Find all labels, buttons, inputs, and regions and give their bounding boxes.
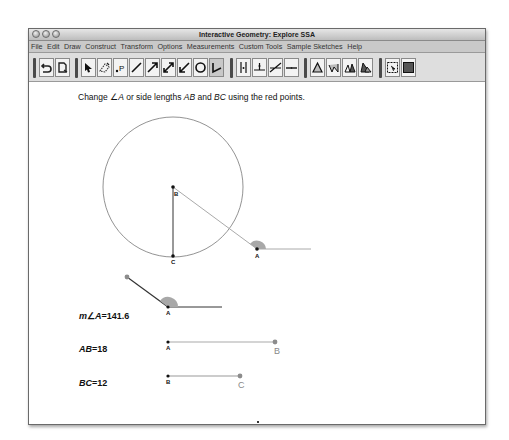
- title-bar[interactable]: Interactive Geometry: Explore SSA: [29, 29, 485, 41]
- meas-angle-value: 141.6: [107, 311, 130, 321]
- segment-ab: [173, 187, 257, 249]
- resize-indicator: [257, 421, 259, 423]
- point-a[interactable]: [255, 247, 259, 251]
- erase-tool-button[interactable]: [97, 58, 112, 77]
- toolbar-grip[interactable]: [75, 58, 78, 78]
- menu-edit[interactable]: Edit: [47, 42, 59, 51]
- point-c[interactable]: [171, 254, 175, 258]
- menu-bar: File Edit Draw Construct Transform Optio…: [29, 41, 485, 53]
- toolbar: P: [29, 53, 485, 82]
- label-angle-vertex: A: [166, 310, 171, 316]
- label-ab-start: A: [166, 345, 171, 351]
- vector-tool-button[interactable]: [177, 58, 192, 77]
- app-window: Interactive Geometry: Explore SSA File E…: [28, 28, 486, 425]
- meas-ab-name: AB: [79, 344, 92, 354]
- angle-control-arm: [127, 277, 168, 307]
- label-bc-end: C: [238, 380, 245, 390]
- toolbar-grip[interactable]: [304, 58, 307, 78]
- intersect-tool-button[interactable]: [268, 58, 283, 77]
- fill-button[interactable]: [401, 58, 416, 77]
- perpendicular-icon: [253, 61, 266, 74]
- reflect-tool-button[interactable]: [326, 58, 341, 77]
- ray-tool-button[interactable]: [145, 58, 160, 77]
- point-tool-button[interactable]: P: [113, 58, 128, 77]
- point-tool-icon: P: [114, 61, 127, 74]
- menu-help[interactable]: Help: [347, 42, 362, 51]
- segment-icon: [130, 61, 143, 74]
- meas-bc-value: 12: [97, 378, 107, 388]
- dilate-icon: [359, 61, 372, 74]
- bc-control-point[interactable]: [238, 374, 243, 379]
- bc-start-point: [166, 374, 169, 377]
- toolbar-grip[interactable]: [379, 58, 382, 78]
- triangle-tool-button[interactable]: [310, 58, 325, 77]
- new-sketch-icon: [56, 61, 69, 74]
- toolbar-grip[interactable]: [230, 58, 233, 78]
- midline-icon: [285, 61, 298, 74]
- ray-icon: [146, 61, 159, 74]
- undo-icon: [40, 61, 53, 74]
- window-title: Interactive Geometry: Explore SSA: [29, 29, 485, 40]
- parallel-icon: [237, 61, 250, 74]
- menu-file[interactable]: File: [31, 42, 43, 51]
- ab-control-point[interactable]: [273, 340, 278, 345]
- angle-symbol: ∠: [87, 311, 95, 321]
- menu-custom-tools[interactable]: Custom Tools: [239, 42, 282, 51]
- circle-tool-button[interactable]: [193, 58, 208, 77]
- angle-control-point[interactable]: [125, 275, 130, 280]
- segment-tool-button[interactable]: [129, 58, 144, 77]
- parallel-tool-button[interactable]: [236, 58, 251, 77]
- rotate-tool-button[interactable]: [342, 58, 357, 77]
- meas-prefix: m: [79, 311, 87, 321]
- angle-tool-button[interactable]: [209, 58, 224, 77]
- rotate-icon: [343, 61, 356, 74]
- angle-icon: [210, 61, 223, 74]
- label-bc-start: B: [166, 379, 171, 385]
- ab-measurement[interactable]: AB=18: [79, 344, 107, 354]
- erase-icon: [98, 61, 111, 74]
- toolbar-grip[interactable]: [33, 58, 36, 78]
- screenshot-icon: [386, 61, 399, 74]
- menu-measurements[interactable]: Measurements: [187, 42, 235, 51]
- menu-options[interactable]: Options: [158, 42, 183, 51]
- meas-ab-value: 18: [97, 344, 107, 354]
- meas-bc-name: BC: [79, 378, 92, 388]
- capture-button[interactable]: [385, 58, 400, 77]
- select-arrow-icon: [82, 61, 95, 74]
- intersect-icon: [269, 61, 282, 74]
- midline-tool-button[interactable]: [284, 58, 299, 77]
- line-tool-button[interactable]: [161, 58, 176, 77]
- label-ab-end: B: [274, 346, 280, 356]
- menu-transform[interactable]: Transform: [121, 42, 153, 51]
- label-b: B: [174, 191, 179, 197]
- menu-draw[interactable]: Draw: [64, 42, 81, 51]
- fill-icon: [402, 61, 415, 74]
- menu-sample-sketches[interactable]: Sample Sketches: [287, 42, 343, 51]
- geometry-drawing: B C A A A B B C: [29, 82, 485, 424]
- perpendicular-tool-button[interactable]: [252, 58, 267, 77]
- line-icon: [162, 61, 175, 74]
- menu-construct[interactable]: Construct: [85, 42, 116, 51]
- undo-button[interactable]: [39, 58, 54, 77]
- label-c: C: [171, 259, 176, 265]
- circle-icon: [194, 61, 207, 74]
- new-sketch-button[interactable]: [55, 58, 70, 77]
- angle-vertex-point: [166, 305, 169, 308]
- angle-measurement[interactable]: m∠A=141.6: [79, 311, 129, 321]
- triangle-icon: [311, 61, 324, 74]
- reflect-icon: [327, 61, 340, 74]
- select-tool-button[interactable]: [81, 58, 96, 77]
- label-a: A: [255, 253, 260, 259]
- angle-control-marker: [160, 297, 178, 307]
- vector-icon: [178, 61, 191, 74]
- point-b[interactable]: [171, 185, 175, 189]
- bc-measurement[interactable]: BC=12: [79, 378, 107, 388]
- dilate-tool-button[interactable]: [358, 58, 373, 77]
- ab-start-point: [166, 340, 169, 343]
- sketch-canvas[interactable]: Change ∠A or side lengths AB and BC usin…: [29, 82, 485, 424]
- svg-text:P: P: [119, 64, 124, 73]
